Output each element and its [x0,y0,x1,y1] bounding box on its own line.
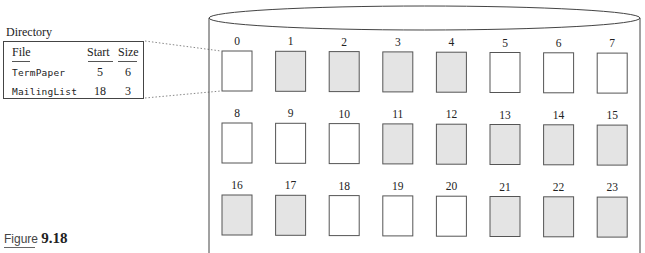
block-number-label: 3 [383,36,413,48]
cylinder-top [209,6,640,30]
block-number-label: 2 [329,36,359,48]
disk-block-used [544,197,574,237]
block-number-label: 18 [329,180,359,192]
disk-block-used [436,124,466,164]
figure-prefix: Figure [4,232,38,246]
disk-block-used [383,124,413,164]
disk-block-used [490,197,520,237]
disk-block-used [597,125,627,165]
disk-block-used [597,197,627,237]
disk-block-free [383,196,413,236]
disk-block-used [383,52,413,92]
disk-block-used [222,195,252,235]
block-number-label: 8 [222,107,252,119]
disk-block-free [222,123,252,163]
block-number-label: 16 [222,179,252,191]
figure-underline [4,247,35,248]
disk-block-free [276,123,306,163]
pointer-line [145,41,221,51]
block-number-label: 21 [490,181,520,193]
block-number-label: 4 [436,36,466,48]
disk-block-used [276,51,306,91]
block-number-label: 14 [544,109,574,121]
block-number-label: 12 [436,108,466,120]
block-number-label: 19 [383,180,413,192]
pointer-line [145,91,221,98]
block-number-label: 9 [276,107,306,119]
block-number-label: 13 [490,109,520,121]
disk-block-free [436,196,466,236]
block-number-label: 20 [436,180,466,192]
block-number-label: 11 [383,108,413,120]
disk-block-free [329,196,359,236]
disk-block-free [544,53,574,93]
disk-block-free [329,124,359,164]
disk-block-used [329,52,359,92]
figure-caption: Figure 9.18 [4,230,68,247]
block-number-label: 15 [597,109,627,121]
figure-number: 9.18 [41,230,67,246]
disk-block-used [276,195,306,235]
disk-block-free [490,53,520,93]
block-number-label: 5 [490,37,520,49]
block-number-label: 0 [222,35,252,47]
disk-block-used [490,125,520,165]
disk-block-free [222,51,252,91]
disk-block-used [436,52,466,92]
disk-block-free [597,53,627,93]
block-number-label: 6 [544,37,574,49]
block-number-label: 1 [276,35,306,47]
block-number-label: 23 [597,181,627,193]
block-number-label: 7 [597,37,627,49]
block-number-label: 22 [544,181,574,193]
block-number-label: 17 [276,179,306,191]
block-number-label: 10 [329,108,359,120]
disk-block-used [544,125,574,165]
